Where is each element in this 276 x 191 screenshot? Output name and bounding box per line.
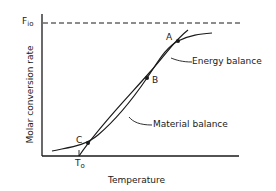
energy-balance-leader — [171, 58, 192, 62]
point-a-label: A — [166, 33, 172, 42]
material-balance-label: Material balance — [153, 120, 228, 129]
x-axis-label: Temperature — [108, 176, 165, 185]
point-a-marker — [176, 39, 180, 43]
point-b-label: B — [152, 76, 158, 85]
asymptote-subscript: io — [27, 20, 33, 28]
point-b-marker — [145, 76, 149, 80]
material-balance-leader — [129, 117, 152, 125]
energy-balance-label: Energy balance — [192, 57, 262, 66]
diagram-canvas — [0, 0, 276, 191]
x-tick-subscript: o — [81, 162, 85, 170]
point-c-marker — [86, 141, 90, 145]
y-axis-label: Molar conversion rate — [26, 35, 35, 155]
point-c-label: C — [76, 136, 82, 145]
x-tick-label: To — [75, 159, 85, 170]
asymptote-label: Fio — [22, 17, 33, 28]
